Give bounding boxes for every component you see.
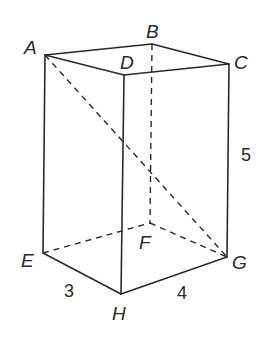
vertex-label-E: E — [21, 250, 34, 271]
vertex-label-B: B — [146, 21, 159, 42]
dimension-CG: 5 — [241, 145, 251, 165]
dimension-HG: 4 — [177, 283, 187, 303]
dimension-EH: 3 — [64, 281, 74, 301]
edge-EH — [43, 253, 121, 294]
vertex-label-G: G — [232, 252, 247, 273]
edge-AB — [45, 44, 152, 55]
edge-AE — [43, 55, 45, 253]
edge-EF-hidden — [43, 223, 150, 253]
edge-DH — [121, 75, 124, 294]
vertex-label-A: A — [23, 37, 37, 58]
edge-CD — [124, 64, 229, 75]
prism-svg: A B C D E F G H 3 4 5 — [0, 0, 269, 343]
prism-diagram: A B C D E F G H 3 4 5 — [0, 0, 269, 343]
edge-FG-hidden — [150, 223, 227, 257]
vertex-label-C: C — [234, 52, 248, 73]
vertex-label-D: D — [120, 52, 134, 73]
edge-DA — [45, 55, 124, 75]
edge-CG — [227, 64, 229, 257]
edge-BC — [152, 44, 229, 64]
vertex-label-F: F — [139, 232, 152, 253]
edge-BF-hidden — [150, 44, 152, 223]
vertex-label-H: H — [112, 303, 126, 324]
edge-HG — [121, 257, 227, 294]
diagonal-AG — [45, 55, 227, 257]
